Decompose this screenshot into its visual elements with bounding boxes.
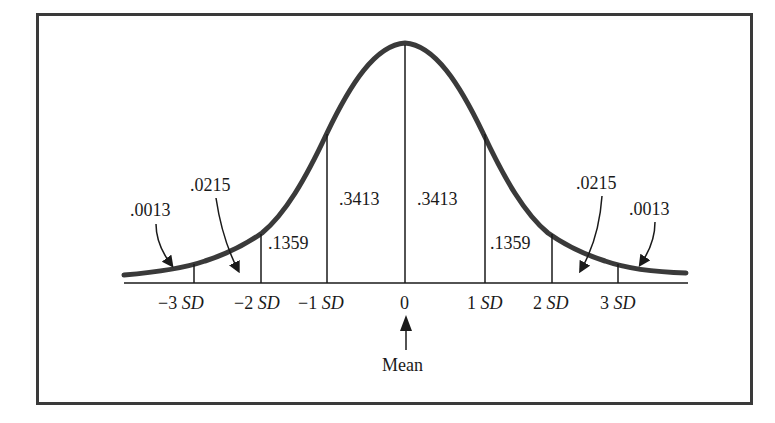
mean-arrow-icon (400, 315, 412, 331)
svg-text:−2 SD: −2 SD (234, 293, 280, 313)
svg-text:3 SD: 3 SD (600, 293, 636, 313)
area-right-0-1: .3413 (417, 189, 458, 209)
svg-text:−3 SD: −3 SD (158, 293, 204, 313)
tick-plus-1: 1 SD (467, 293, 503, 313)
svg-text:−1 SD: −1 SD (298, 293, 344, 313)
tick-minus-1: −1 SD (298, 293, 344, 313)
tick-plus-2: 2 SD (533, 293, 569, 313)
normal-curve-diagram: .0013 .0215 .1359 .3413 .3413 .1359 .021… (0, 0, 775, 423)
area-right-tail: .0013 (629, 199, 670, 219)
svg-text:2 SD: 2 SD (533, 293, 569, 313)
area-right-1-2: .1359 (490, 233, 531, 253)
area-left-0-1: .3413 (339, 189, 380, 209)
area-right-2-3: .0215 (576, 173, 617, 193)
tick-plus-3: 3 SD (600, 293, 636, 313)
tick-minus-2: −2 SD (234, 293, 280, 313)
svg-text:1 SD: 1 SD (467, 293, 503, 313)
area-left-tail: .0013 (130, 200, 171, 220)
arrow-right-tail-icon (642, 222, 655, 262)
mean-label: Mean (382, 355, 423, 375)
tick-zero: 0 (400, 293, 409, 313)
arrow-left-tail-icon (156, 224, 170, 263)
tick-minus-3: −3 SD (158, 293, 204, 313)
area-left-1-2: .1359 (268, 233, 309, 253)
area-left-2-3: .0215 (190, 175, 231, 195)
